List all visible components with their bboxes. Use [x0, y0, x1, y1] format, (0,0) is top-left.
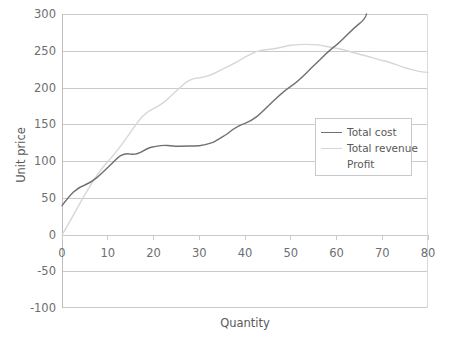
y-tick-neg50: -50 — [10, 265, 56, 277]
legend-label-total-cost: Total cost — [347, 126, 397, 138]
x-axis-tick-labels: 0 10 20 30 40 50 60 70 80 — [62, 247, 428, 263]
y-tick-200: 200 — [10, 82, 56, 94]
y-tick-300: 300 — [10, 8, 56, 20]
y-tick-250: 250 — [10, 45, 56, 57]
x-tick-70: 70 — [362, 247, 402, 259]
y-axis-title: Unit price — [14, 95, 28, 215]
x-axis-title: Quantity — [62, 316, 428, 330]
x-tick-30: 30 — [179, 247, 219, 259]
x-tick-80: 80 — [408, 247, 448, 259]
legend-swatch-total-revenue — [321, 148, 342, 149]
x-tick-60: 60 — [317, 247, 357, 259]
x-tick-40: 40 — [225, 247, 265, 259]
legend-item-total-cost: Total cost — [316, 124, 411, 140]
x-tick-50: 50 — [271, 247, 311, 259]
y-tick-0: 0 — [10, 229, 56, 241]
x-tick-0: 0 — [42, 247, 82, 259]
legend-label-profit: Profit — [347, 158, 374, 170]
x-tick-10: 10 — [88, 247, 128, 259]
x-tick-20: 20 — [134, 247, 174, 259]
x-axis-ticks — [62, 235, 428, 240]
legend-label-total-revenue: Total revenue — [347, 142, 418, 154]
legend-swatch-profit — [321, 164, 342, 165]
series-total-cost — [62, 14, 367, 206]
legend-swatch-total-cost — [321, 132, 342, 133]
chart-legend: Total cost Total revenue Profit — [315, 118, 412, 176]
y-tick-neg100: -100 — [10, 302, 56, 314]
legend-item-profit: Profit — [316, 156, 411, 172]
legend-item-total-revenue: Total revenue — [316, 140, 411, 156]
line-chart: 300 250 200 150 100 50 0 -50 -100 — [0, 0, 452, 352]
